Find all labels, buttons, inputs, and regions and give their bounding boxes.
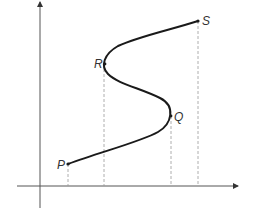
label-p: P <box>57 158 65 172</box>
point-r <box>104 63 107 66</box>
s-curve <box>68 21 198 164</box>
point-s <box>196 19 199 22</box>
label-s: S <box>202 14 210 28</box>
point-p <box>66 162 69 165</box>
s-curve-diagram: P Q R S <box>0 0 260 215</box>
point-q <box>170 115 173 118</box>
label-q: Q <box>174 110 183 124</box>
label-r: R <box>94 57 103 71</box>
